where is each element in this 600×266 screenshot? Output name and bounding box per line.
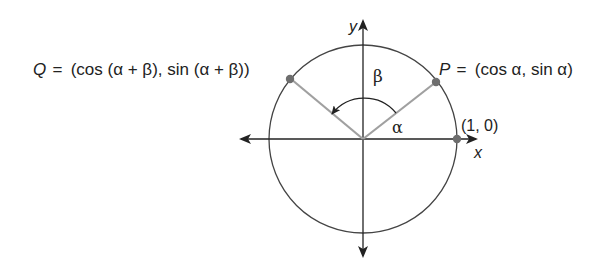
point-p-name: P xyxy=(439,60,451,79)
beta-angle-arc xyxy=(332,98,396,114)
point-q-equals: = xyxy=(52,60,62,79)
unit-point-label: (1, 0) xyxy=(461,117,498,134)
y-axis-label: y xyxy=(348,18,358,35)
point-p-coords: (cos α, sin α) xyxy=(475,60,573,79)
x-axis-label: x xyxy=(473,144,483,161)
point-q xyxy=(286,75,294,83)
point-q-name: Q xyxy=(33,60,46,79)
radius-oq xyxy=(291,79,363,139)
point-q-label: Q = (cos (α + β), sin (α + β)) xyxy=(33,60,250,79)
alpha-label: α xyxy=(392,118,403,137)
point-q-coords: (cos (α + β), sin (α + β)) xyxy=(71,60,250,79)
point-p-label: P = (cos α, sin α) xyxy=(439,60,573,79)
point-p xyxy=(432,78,440,86)
unit-circle-diagram: y x β α P = (cos α, sin α) Q = (cos (α +… xyxy=(0,0,600,266)
point-unit xyxy=(453,135,461,143)
beta-label: β xyxy=(373,66,383,86)
point-p-equals: = xyxy=(457,60,467,79)
